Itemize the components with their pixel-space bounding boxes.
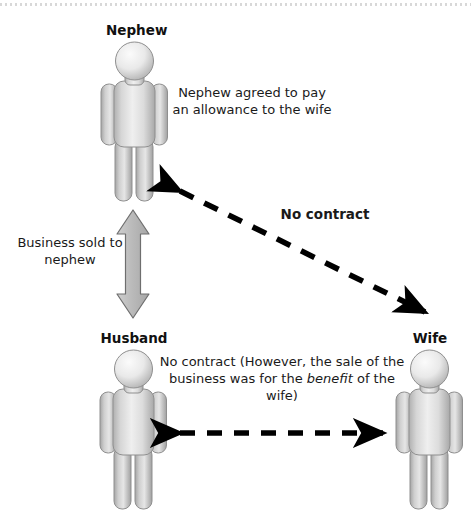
edge-label-nephew-wife: No contract bbox=[265, 206, 385, 223]
figure-husband bbox=[100, 350, 167, 509]
top-dotted-rule bbox=[0, 3, 471, 6]
node-label-husband: Husband bbox=[98, 330, 170, 346]
edge-label-husband-wife: No contract (However, the sale of the bu… bbox=[158, 353, 406, 404]
node-label-wife: Wife bbox=[405, 330, 455, 346]
diagram-canvas: Nephew Husband Wife Nephew agreed to pay… bbox=[0, 0, 471, 527]
node-label-nephew: Nephew bbox=[106, 22, 166, 38]
edge-label-husband-wife-emphasis: benefit bbox=[307, 371, 353, 386]
edge-label-husband-wife-title: No contract bbox=[160, 354, 236, 369]
annotation-nephew-allowance: Nephew agreed to pay an allowance to the… bbox=[172, 84, 332, 118]
annotation-business-sold: Business sold to nephew bbox=[10, 234, 130, 268]
figure-nephew bbox=[101, 42, 168, 201]
